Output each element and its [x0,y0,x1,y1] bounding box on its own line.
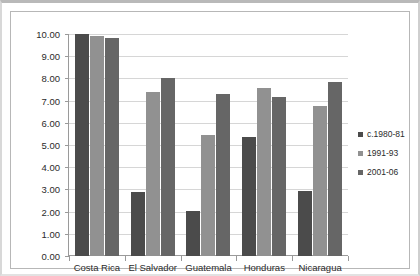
y-axis-tick-label: 9.00 [42,51,61,62]
bar [75,34,89,256]
x-axis-tick-mark [292,256,293,261]
bar [105,38,119,256]
x-axis-tick-mark [69,256,70,261]
y-axis-tick-label: 7.00 [42,95,61,106]
x-axis-tick-mark [348,256,349,261]
y-axis-tick-label: 5.00 [42,140,61,151]
bar-group [242,34,286,256]
bar [298,191,312,256]
bar [186,211,200,257]
y-axis-tick-label: 1.00 [42,228,61,239]
x-axis-category-label: El Salvador [125,262,181,273]
legend-swatch-icon [358,151,363,156]
legend-item[interactable]: 2001-06 [358,167,405,177]
bar [161,78,175,256]
bar-group [131,34,175,256]
legend-label: c.1980-81 [367,129,405,139]
legend-item[interactable]: c.1980-81 [358,129,405,139]
bar-group [186,34,230,256]
bar [328,82,342,256]
legend-item[interactable]: 1991-93 [358,148,405,158]
bar [257,88,271,256]
bar [131,192,145,256]
bars-layer [69,34,348,256]
y-axis-tick-label: 2.00 [42,206,61,217]
x-axis-labels: Costa RicaEl SalvadorGuatemalaHondurasNi… [69,262,348,273]
legend-label: 1991-93 [367,148,398,158]
chart-legend: c.1980-811991-932001-06 [358,129,405,177]
bar [216,94,230,256]
y-axis-tick-label: 3.00 [42,184,61,195]
legend-label: 2001-06 [367,167,398,177]
x-axis-tick-mark [181,256,182,261]
bar-group [298,34,342,256]
bar [242,137,256,256]
bar-group [75,34,119,256]
bar [90,36,104,256]
x-axis-tick-mark [125,256,126,261]
y-axis-labels: 10.009.008.007.006.005.004.003.002.001.0… [11,34,64,256]
y-axis-tick-label: 10.00 [36,29,60,40]
chart-frame: 10.009.008.007.006.005.004.003.002.001.0… [10,11,410,269]
x-axis-category-label: Honduras [236,262,292,273]
y-axis-tick-label: 8.00 [42,73,61,84]
bar [146,92,160,256]
x-axis-tick-mark [236,256,237,261]
x-axis-category-label: Costa Rica [69,262,125,273]
chart-figure: 10.009.008.007.006.005.004.003.002.001.0… [0,0,420,276]
legend-swatch-icon [358,132,363,137]
y-axis-tick-label: 6.00 [42,117,61,128]
y-axis-tick-label: 4.00 [42,162,61,173]
y-axis-tick-label: 0.00 [42,251,61,262]
x-axis-ticks [68,256,349,261]
legend-swatch-icon [358,170,363,175]
x-axis-category-label: Nicaragua [292,262,348,273]
x-axis-category-label: Guatemala [181,262,237,273]
bar [201,135,215,256]
bar [272,97,286,256]
bar [313,106,327,256]
